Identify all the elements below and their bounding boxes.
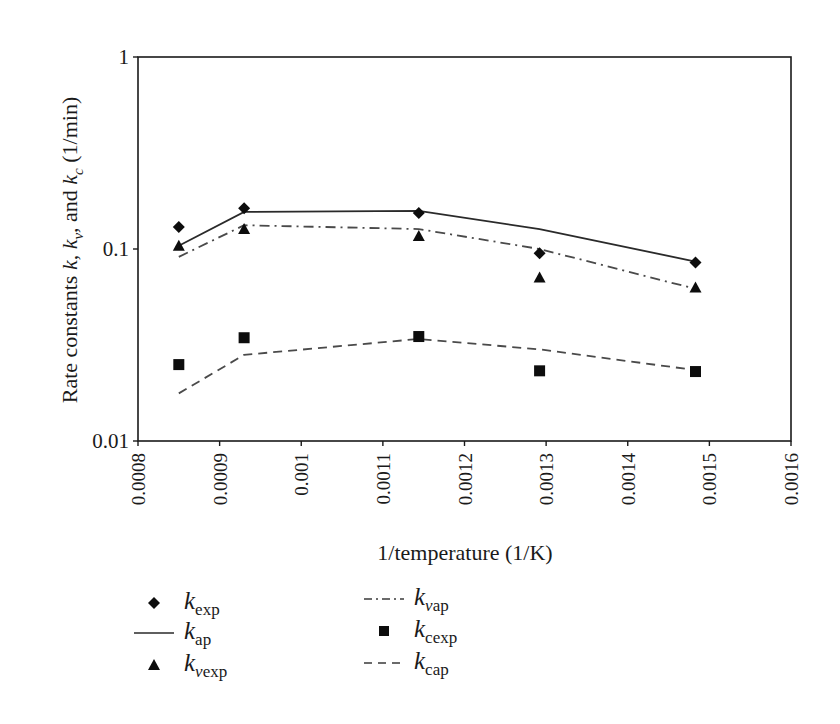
triangle-marker [173,240,185,251]
plot-frame [138,57,791,441]
diamond-marker [413,207,425,219]
x-axis-ticks: 0.00080.00090.0010.00110.00120.00130.001… [128,441,802,505]
x-tick-label: 0.0008 [128,453,149,505]
x-tick-label: 0.0011 [373,453,394,505]
square-marker [413,331,424,342]
diamond-marker [689,257,701,269]
square-marker [173,359,184,370]
triangle-marker [413,230,425,241]
triangle-marker [238,223,250,234]
x-tick-label: 0.0014 [618,453,639,506]
series-lines [179,211,696,394]
series-line-k-vap [179,225,696,289]
x-tick-label: 0.0009 [210,453,231,505]
square-marker [690,366,701,377]
series-line-k-cap [179,339,696,393]
x-tick-label: 0.0012 [455,453,476,505]
series-markers [173,202,702,377]
square-marker [534,365,545,376]
diamond-marker [173,221,185,233]
x-tick-label: 0.0013 [536,453,557,505]
y-axis-label: Rate constants k, kv, and kc (1/min) [57,97,86,404]
x-axis-label: 1/temperature (1/K) [377,540,552,565]
y-axis-ticks: 0.010.11 [92,45,138,453]
y-tick-label: 0.1 [103,237,129,261]
y-tick-label: 1 [119,45,130,69]
triangle-marker [689,282,701,293]
x-tick-label: 0.001 [291,453,312,496]
square-marker [239,332,250,343]
diamond-marker [534,247,546,259]
y-tick-label: 0.01 [92,429,129,453]
x-tick-label: 0.0015 [699,453,720,505]
series-line-k-ap [179,211,696,262]
rate-constants-chart: 0.00080.00090.0010.00110.00120.00130.001… [0,0,840,724]
triangle-marker [534,272,546,283]
x-tick-label: 0.0016 [781,453,802,505]
